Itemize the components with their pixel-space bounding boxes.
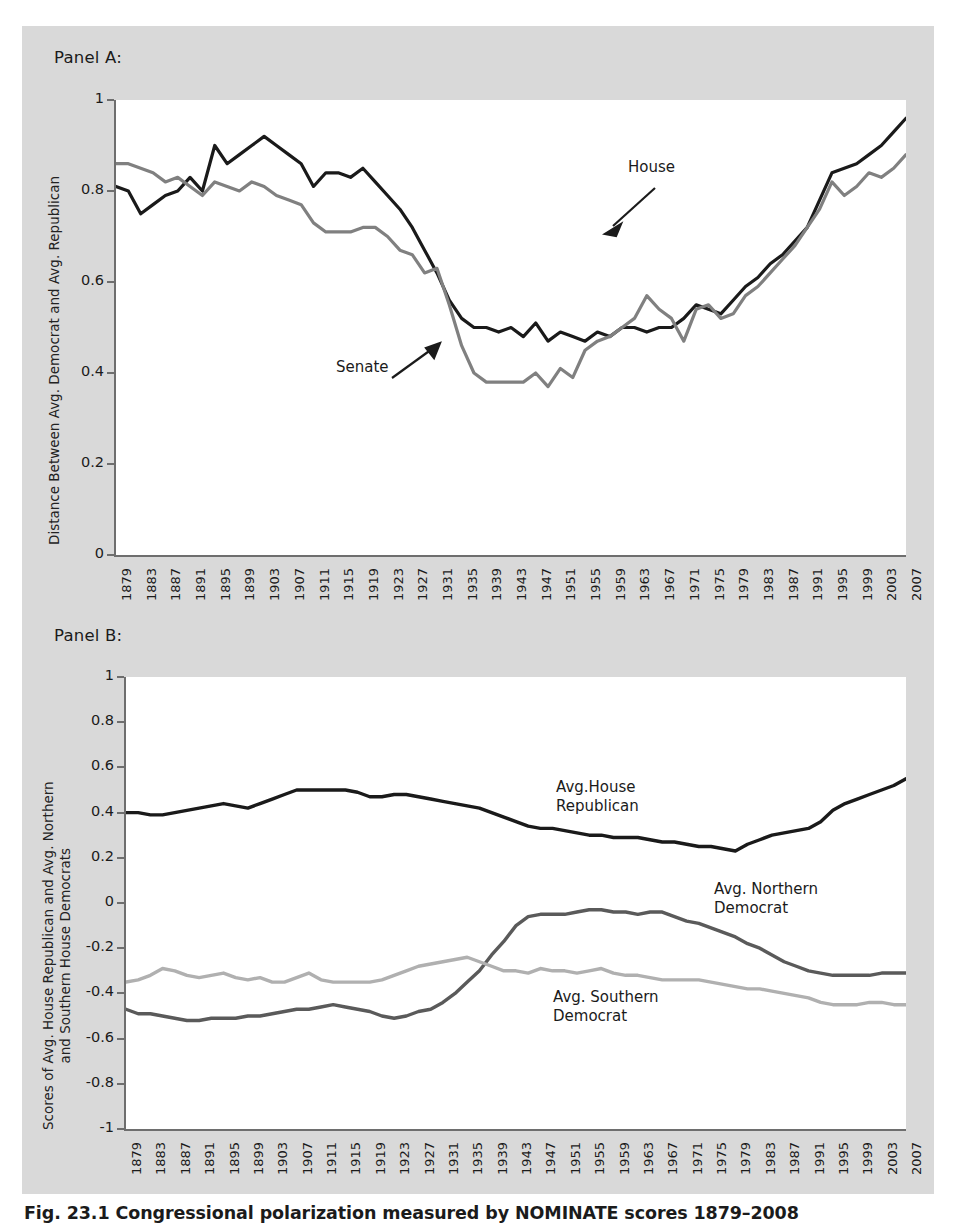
figure-caption: Fig. 23.1 Congressional polarization mea… <box>24 1203 944 1230</box>
x-tick-label: 1987 <box>786 568 801 601</box>
figure-page: Panel A: Distance Between Avg. Democrat … <box>0 0 958 1230</box>
y-tick-label: 0 <box>68 893 114 909</box>
annotation-senate: Senate <box>336 358 389 377</box>
panel-b-label: Panel B: <box>54 626 122 645</box>
x-tick-label: 1963 <box>637 568 652 601</box>
y-tick-mark <box>117 1128 124 1130</box>
x-tick-label: 1975 <box>714 1142 729 1175</box>
panel-a-label: Panel A: <box>54 48 122 67</box>
x-tick-label: 1911 <box>324 1142 339 1175</box>
x-tick-label: 1959 <box>613 568 628 601</box>
x-tick-label: 1895 <box>227 1142 242 1175</box>
x-tick-label: 1951 <box>568 1142 583 1175</box>
annotation-avg-house-republican: Avg.House Republican <box>556 778 639 816</box>
x-tick-label: 1919 <box>373 1142 388 1175</box>
x-tick-label: 1919 <box>366 568 381 601</box>
y-tick-label: 0.8 <box>58 181 104 197</box>
x-tick-label: 1903 <box>275 1142 290 1175</box>
x-tick-label: 1883 <box>153 1142 168 1175</box>
x-tick-label: 1963 <box>641 1142 656 1175</box>
x-tick-label: 1971 <box>690 1142 705 1175</box>
x-tick-label: 1887 <box>178 1142 193 1175</box>
x-tick-label: 1943 <box>519 1142 534 1175</box>
y-tick-label: 0.8 <box>68 712 114 728</box>
y-tick-label: 0.6 <box>68 757 114 773</box>
y-tick-mark <box>117 902 124 904</box>
y-tick-mark <box>117 1083 124 1085</box>
x-tick-label: 1951 <box>563 568 578 601</box>
x-tick-label: 1915 <box>341 568 356 601</box>
x-tick-label: 1923 <box>391 568 406 601</box>
x-tick-label: 1935 <box>465 568 480 601</box>
y-tick-label: -0.4 <box>68 983 114 999</box>
x-tick-label: 1947 <box>539 568 554 601</box>
panel-a-lines <box>116 100 906 555</box>
x-tick-label: 1955 <box>588 568 603 601</box>
x-tick-label: 1899 <box>251 1142 266 1175</box>
y-tick-mark <box>117 812 124 814</box>
y-tick-mark <box>117 676 124 678</box>
x-tick-label: 1991 <box>810 568 825 601</box>
x-tick-label: 1995 <box>836 1142 851 1175</box>
y-tick-mark <box>117 992 124 994</box>
x-tick-label: 2003 <box>884 568 899 601</box>
x-tick-label: 1915 <box>348 1142 363 1175</box>
y-tick-mark <box>117 766 124 768</box>
y-tick-mark <box>107 372 114 374</box>
y-tick-label: -0.2 <box>68 938 114 954</box>
x-tick-label: 1911 <box>317 568 332 601</box>
annotation-avg-southern-democrat: Avg. Southern Democrat <box>553 988 659 1026</box>
y-tick-mark <box>117 857 124 859</box>
series-line <box>116 118 906 341</box>
x-tick-label: 1891 <box>193 568 208 601</box>
y-tick-label: 0.2 <box>68 848 114 864</box>
x-tick-label: 1903 <box>267 568 282 601</box>
x-tick-label: 1935 <box>470 1142 485 1175</box>
x-tick-label: 1923 <box>397 1142 412 1175</box>
x-tick-label: 1955 <box>592 1142 607 1175</box>
x-tick-label: 1891 <box>202 1142 217 1175</box>
x-tick-label: 1991 <box>812 1142 827 1175</box>
x-tick-label: 1999 <box>860 1142 875 1175</box>
x-tick-label: 1975 <box>712 568 727 601</box>
panel-b-y-axis-label-line1: Scores of Avg. House Republican and Avg.… <box>40 781 57 1130</box>
x-tick-label: 1983 <box>763 1142 778 1175</box>
x-tick-label: 1979 <box>736 568 751 601</box>
y-tick-label: 0.4 <box>58 363 104 379</box>
y-tick-mark <box>107 463 114 465</box>
x-tick-label: 1987 <box>787 1142 802 1175</box>
y-tick-label: -0.8 <box>68 1074 114 1090</box>
y-tick-label: -0.6 <box>68 1029 114 1045</box>
panel-a-y-axis-label: Distance Between Avg. Democrat and Avg. … <box>46 176 62 545</box>
y-tick-label: 1 <box>58 90 104 106</box>
x-tick-label: 2003 <box>885 1142 900 1175</box>
x-tick-label: 1899 <box>242 568 257 601</box>
x-tick-label: 1931 <box>446 1142 461 1175</box>
x-tick-label: 1959 <box>617 1142 632 1175</box>
x-tick-label: 1939 <box>495 1142 510 1175</box>
x-tick-label: 1931 <box>440 568 455 601</box>
x-tick-label: 1879 <box>129 1142 144 1175</box>
x-tick-label: 1999 <box>860 568 875 601</box>
x-tick-label: 1995 <box>835 568 850 601</box>
x-tick-label: 1883 <box>144 568 159 601</box>
x-tick-label: 1967 <box>662 568 677 601</box>
series-line <box>126 779 906 851</box>
y-tick-label: 0 <box>58 545 104 561</box>
x-tick-label: 1967 <box>665 1142 680 1175</box>
annotation-avg-northern-democrat: Avg. Northern Democrat <box>714 880 818 918</box>
x-tick-label: 2007 <box>909 568 924 601</box>
y-tick-label: 0.4 <box>68 803 114 819</box>
y-tick-mark <box>117 947 124 949</box>
series-line <box>126 910 906 1021</box>
y-tick-mark <box>117 1038 124 1040</box>
y-tick-mark <box>107 554 114 556</box>
series-line <box>116 155 906 387</box>
x-tick-label: 1971 <box>687 568 702 601</box>
x-tick-label: 1895 <box>218 568 233 601</box>
x-tick-label: 1879 <box>119 568 134 601</box>
y-tick-mark <box>107 190 114 192</box>
y-tick-label: 0.2 <box>58 454 104 470</box>
x-tick-label: 2007 <box>909 1142 924 1175</box>
y-tick-label: -1 <box>68 1119 114 1135</box>
